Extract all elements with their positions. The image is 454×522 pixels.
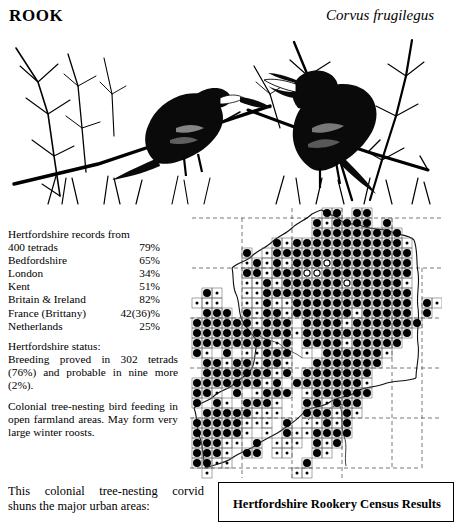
tetrad-symbol-breeding-proved (403, 289, 411, 297)
tetrad-symbol-present (326, 222, 329, 225)
tetrad-symbol-breeding-proved (223, 369, 231, 377)
tetrad-symbol-breeding-proved (213, 429, 221, 437)
tetrad-symbol-breeding-proved (333, 309, 341, 317)
tetrad-symbol-present (246, 432, 249, 435)
tetrad-symbol-breeding-proved (353, 229, 361, 237)
tetrad-symbol-present (246, 352, 249, 355)
tetrad-symbol-breeding-proved (313, 369, 321, 377)
tetrad-symbol-breeding-proved (383, 319, 391, 327)
tetrad-symbol-present (266, 422, 269, 425)
tetrad-symbol-breeding-proved (333, 259, 341, 267)
tetrad-symbol-breeding-proved (333, 349, 341, 357)
tetrad-symbol-breeding-proved (273, 349, 281, 357)
tetrad-symbol-breeding-proved (203, 289, 211, 297)
tetrad-symbol-breeding-proved (293, 289, 301, 297)
tetrad-symbol-present (256, 392, 259, 395)
tetrad-symbol-breeding-proved (323, 329, 331, 337)
tetrad-symbol-breeding-proved (313, 409, 321, 417)
tetrad-symbol-breeding-proved (303, 299, 311, 307)
tetrad-symbol-breeding-proved (193, 459, 201, 467)
tetrad-symbol-breeding-proved (223, 339, 231, 347)
tetrad-symbol-breeding-proved (313, 339, 321, 347)
records-row-value: 82% (139, 293, 160, 306)
tetrad-symbol-present (406, 242, 409, 245)
records-row-label: Kent (8, 280, 30, 293)
tetrad-symbol-present (286, 452, 289, 455)
tetrad-symbol-breeding-proved (333, 439, 341, 447)
tetrad-symbol-breeding-proved (373, 319, 381, 327)
records-row: Kent51% (8, 280, 160, 293)
tetrad-symbol-breeding-proved (303, 249, 311, 257)
tetrad-symbol-breeding-proved (353, 249, 361, 257)
tetrad-symbol-breeding-proved (263, 279, 271, 287)
tetrad-symbol-breeding-proved (313, 239, 321, 247)
tetrad-symbol-breeding-proved (323, 409, 331, 417)
tetrad-symbol-breeding-proved (383, 219, 391, 227)
tetrad-symbol-breeding-proved (403, 259, 411, 267)
tetrad-symbol-breeding-proved (313, 219, 321, 227)
tetrad-symbol-present (266, 382, 269, 385)
tetrad-symbol-breeding-proved (333, 249, 341, 257)
footer-line-1: This colonial tree-nesting corvid (8, 484, 204, 499)
tetrad-symbol-breeding-proved (333, 289, 341, 297)
tetrad-symbol-breeding-proved (383, 249, 391, 257)
tetrad-symbol-present (276, 412, 279, 415)
tetrad-symbol-breeding-proved (193, 339, 201, 347)
tetrad-symbol-present (226, 402, 229, 405)
tetrad-symbol-breeding-proved (263, 299, 271, 307)
tetrad-symbol-present (246, 302, 249, 305)
tetrad-symbol-breeding-proved (273, 329, 281, 337)
tetrad-symbol-breeding-proved (303, 319, 311, 327)
tetrad-symbol-breeding-proved (323, 369, 331, 377)
tetrad-symbol-present (216, 392, 219, 395)
tetrad-symbol-breeding-proved (313, 259, 321, 267)
tetrad-symbol-present (196, 302, 199, 305)
tetrad-symbol-breeding-proved (393, 329, 401, 337)
tetrad-symbol-breeding-proved (283, 349, 291, 357)
records-row-value: 51% (139, 280, 160, 293)
tetrad-symbol-present (226, 442, 229, 445)
tetrad-symbol-breeding-proved (243, 269, 251, 277)
tetrad-symbol-breeding-proved (373, 299, 381, 307)
tetrad-symbol-present (256, 352, 259, 355)
tetrad-symbol-breeding-proved (233, 419, 241, 427)
tetrad-symbol-breeding-proved (363, 329, 371, 337)
tetrad-symbol-breeding-proved (383, 269, 391, 277)
tetrad-symbol-breeding-proved (233, 379, 241, 387)
tetrad-symbol-breeding-proved (223, 409, 231, 417)
tetrad-symbol-breeding-proved (213, 449, 221, 457)
records-row-label: Bedfordshire (8, 254, 67, 267)
tetrad-symbol-breeding-proved (313, 399, 321, 407)
tetrad-symbol-breeding-proved (393, 339, 401, 347)
tetrad-symbol-breeding-proved (253, 379, 261, 387)
tetrad-symbol-breeding-proved (313, 389, 321, 397)
tetrad-symbol-breeding-proved (383, 299, 391, 307)
tetrad-symbol-breeding-proved (213, 419, 221, 427)
tetrad-symbol-breeding-proved (423, 309, 431, 317)
tetrad-symbol-breeding-proved (403, 269, 411, 277)
tetrad-symbol-breeding-proved (243, 359, 251, 367)
tetrad-symbol-breeding-proved (203, 309, 211, 317)
tetrad-symbol-breeding-proved (243, 449, 251, 457)
tetrad-symbol-breeding-proved (343, 299, 351, 307)
tetrad-symbol-breeding-proved (263, 399, 271, 407)
tetrad-symbol-present (306, 352, 309, 355)
tetrad-symbol-breeding-proved (333, 219, 341, 227)
tetrad-symbol-breeding-proved (383, 329, 391, 337)
tetrad-symbol-present (286, 362, 289, 365)
tetrad-symbol-breeding-proved (393, 309, 401, 317)
tetrad-symbol-present (266, 252, 269, 255)
tetrad-symbol-breeding-proved (213, 379, 221, 387)
tetrad-symbol-breeding-proved (343, 289, 351, 297)
tetrad-symbol-breeding-proved (383, 239, 391, 247)
tetrad-symbol-breeding-proved (343, 359, 351, 367)
tetrad-symbol-breeding-probable (344, 280, 350, 286)
tetrad-symbol-present (266, 262, 269, 265)
tetrad-symbol-present (276, 342, 279, 345)
tetrad-symbol-breeding-proved (273, 239, 281, 247)
tetrad-symbol-breeding-proved (353, 289, 361, 297)
records-row-value: 65% (139, 254, 160, 267)
tetrad-symbol-breeding-proved (303, 259, 311, 267)
tetrad-symbol-breeding-proved (283, 329, 291, 337)
